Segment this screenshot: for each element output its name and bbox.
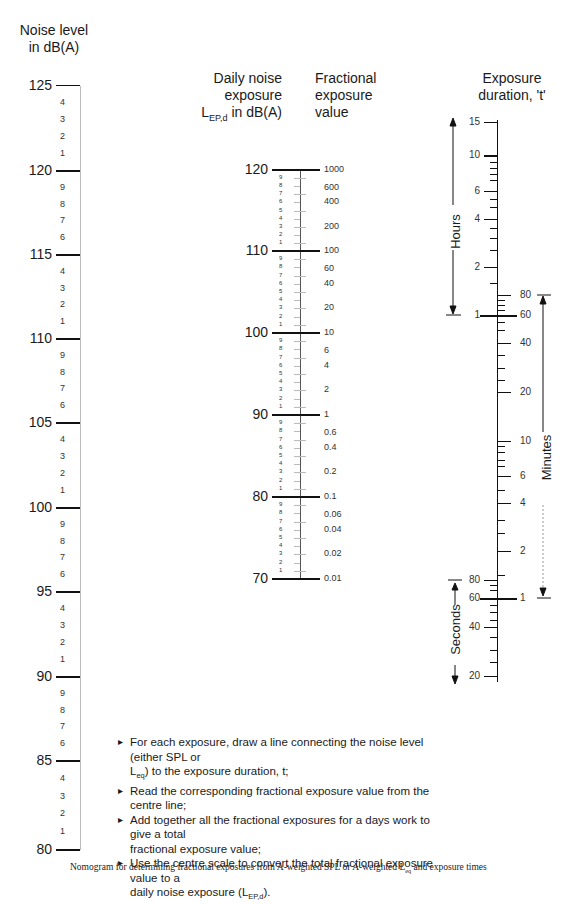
seconds-arrow-icon — [448, 580, 462, 684]
instruction-item: For each exposure, draw a line connectin… — [118, 735, 448, 784]
minutes-arrow-icon — [537, 295, 551, 598]
instruction-item: Add together all the fractional exposure… — [118, 813, 448, 857]
figure-caption: Nomogram for determining fractional expo… — [70, 862, 487, 874]
instruction-item: Read the corresponding fractional exposu… — [118, 784, 448, 813]
hours-arrow-icon — [446, 118, 461, 315]
instructions-list: For each exposure, draw a line connectin… — [118, 735, 448, 904]
